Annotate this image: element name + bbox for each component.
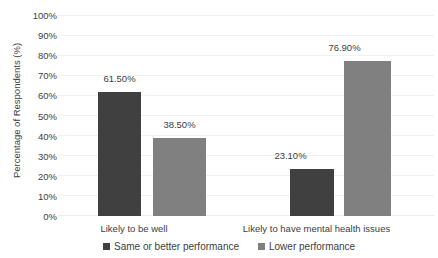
y-axis-tick-label: 40% [9, 131, 57, 142]
y-axis-tick-label: 0% [9, 211, 57, 222]
gridline [58, 35, 434, 36]
bar-chart: Percentage of Respondents (%) 100% 90% 8… [0, 0, 438, 258]
y-axis-tick-label: 60% [9, 90, 57, 101]
bar-value-label: 61.50% [78, 73, 161, 84]
x-axis-category-label-likely-to-be-well: Likely to be well [54, 223, 214, 234]
gridline [58, 15, 434, 16]
bar-group1-lower[interactable] [153, 138, 206, 216]
bar-value-label: 38.50% [138, 119, 221, 130]
bar-value-label: 76.90% [303, 42, 386, 53]
y-axis-tick-label: 80% [9, 50, 57, 61]
y-axis-tick-label: 100% [9, 10, 57, 21]
legend-item-label: Lower performance [269, 241, 355, 252]
legend-item-same-or-better[interactable]: Same or better performance [103, 241, 239, 252]
gridline [58, 55, 434, 56]
legend-item-label: Same or better performance [114, 241, 239, 252]
legend: Same or better performance Lower perform… [0, 241, 438, 255]
y-axis-tick-label: 10% [9, 191, 57, 202]
legend-swatch-icon [258, 243, 265, 250]
bar-group2-lower[interactable] [344, 61, 391, 216]
bar-value-label: 23.10% [249, 150, 332, 161]
bar-group2-same-or-better[interactable] [290, 169, 334, 216]
legend-swatch-icon [103, 243, 110, 250]
chart-title-clipped [0, 0, 438, 9]
legend-item-lower-performance[interactable]: Lower performance [258, 241, 355, 252]
y-axis-tick-label: 50% [9, 111, 57, 122]
y-axis-tick-label: 20% [9, 171, 57, 182]
y-axis-tick-label: 90% [9, 30, 57, 41]
y-axis-tick-label: 70% [9, 70, 57, 81]
x-axis-category-label-mental-health-issues: Likely to have mental health issues [229, 223, 404, 234]
y-axis-tick-label: 30% [9, 151, 57, 162]
bar-group1-same-or-better[interactable] [98, 92, 141, 216]
